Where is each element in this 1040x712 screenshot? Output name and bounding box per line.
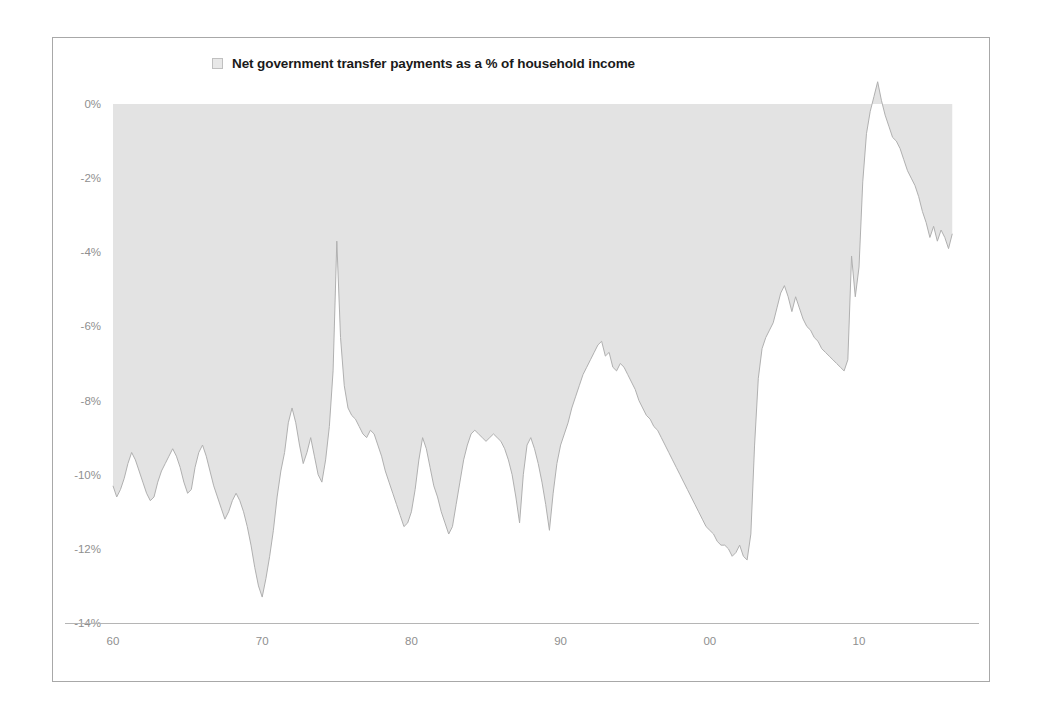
x-axis-tick-label: 10 (853, 635, 866, 647)
y-axis-tick-label: -4% (57, 246, 101, 258)
x-axis-tick-label: 00 (703, 635, 716, 647)
chart-frame: Net government transfer payments as a % … (52, 37, 990, 682)
y-axis-tick-label: -10% (57, 469, 101, 481)
area-series-fill (113, 82, 952, 597)
x-axis-tick-label: 90 (554, 635, 567, 647)
y-axis-tick-label: -12% (57, 543, 101, 555)
x-axis-tick-label: 80 (405, 635, 418, 647)
area-chart-svg (53, 38, 991, 683)
plot-area: 0%-2%-4%-6%-8%-10%-12%-14% 607080900010 (53, 38, 991, 683)
x-axis-tick-label: 70 (256, 635, 269, 647)
y-axis-tick-label: -8% (57, 395, 101, 407)
y-axis-tick-label: 0% (57, 98, 101, 110)
y-axis-tick-label: -2% (57, 172, 101, 184)
y-axis-tick-label: -6% (57, 320, 101, 332)
x-axis-tick-label: 60 (107, 635, 120, 647)
x-axis-line (65, 623, 979, 624)
